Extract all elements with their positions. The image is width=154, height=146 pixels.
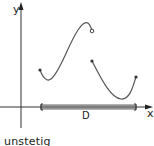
y-axis-label: y <box>13 4 20 15</box>
x-axis-label: x <box>147 108 154 119</box>
function-graph: y x D unstetig <box>0 0 154 146</box>
closed-endpoint-dot <box>90 59 93 62</box>
closed-endpoint-dot <box>38 68 41 71</box>
closed-endpoint-dot <box>134 75 137 78</box>
curve-right-branch <box>92 61 136 99</box>
caption: unstetig <box>4 136 51 146</box>
graph-canvas <box>0 0 154 146</box>
curve-left-branch <box>40 23 92 80</box>
open-endpoint-circle <box>90 29 94 33</box>
domain-label: D <box>82 111 90 121</box>
